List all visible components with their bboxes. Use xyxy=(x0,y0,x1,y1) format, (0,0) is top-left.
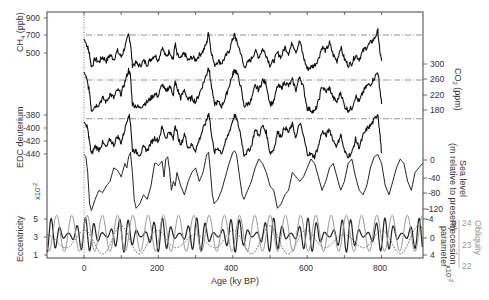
ch4-axis-label: CH4 (ppb) xyxy=(15,12,26,52)
edc-axis-label: EDC deuterium xyxy=(15,106,25,168)
co2-tick-220: 220 xyxy=(430,90,444,100)
reference-lines xyxy=(86,35,423,119)
ecc-tick-5: 5 xyxy=(33,214,38,224)
series-line xyxy=(84,151,423,211)
ch4-tick-900: 900 xyxy=(26,13,40,23)
x-tick-labels: 0 200 400 600 800 xyxy=(82,263,388,273)
eccentricity-axis-label: Eccentricity xyxy=(15,215,25,262)
prec-tick-4: 4 xyxy=(430,250,435,260)
sea-tick-0: 0 xyxy=(430,155,435,165)
orbital-series xyxy=(47,215,423,254)
co2-tick-300: 300 xyxy=(430,59,444,69)
prec-tick-0: 0 xyxy=(430,233,435,243)
sea-level-axis-label: Sea level xyxy=(458,160,468,197)
edc-tick-400: -400 xyxy=(23,123,40,133)
sea-tick-120: -120 xyxy=(426,204,443,214)
obliquity-tick-labels: 24 23 22 xyxy=(462,218,472,271)
left-tick-labels: 900 700 500 -380 -400 -420 -440 5 3 1 xyxy=(23,13,40,260)
x-tick-0: 0 xyxy=(82,263,87,273)
x-tick-800: 800 xyxy=(373,263,387,273)
edc-tick-420: -420 xyxy=(23,136,40,146)
co2-tick-180: 180 xyxy=(430,105,444,115)
obl-tick-23: 23 xyxy=(462,240,472,250)
x-tick-200: 200 xyxy=(150,263,164,273)
edc-tick-440: -440 xyxy=(23,149,40,159)
edc-tick-380: -380 xyxy=(23,110,40,120)
obl-tick-22: 22 xyxy=(462,261,472,271)
parameter-axis-label: parameter xyxy=(439,226,449,267)
obliquity-axis-label: Obliquity xyxy=(473,220,483,256)
sea-tick-80: -80 xyxy=(428,188,441,198)
prec-tick-4n: -4 xyxy=(426,214,434,224)
sea-level-series xyxy=(84,151,423,211)
co2-tick-260: 260 xyxy=(430,74,444,84)
x-tick-600: 600 xyxy=(299,263,313,273)
ecc-tick-1: 1 xyxy=(33,250,38,260)
climate-chart: 900 700 500 -380 -400 -420 -440 5 3 1 CH… xyxy=(0,0,489,300)
x10-left-label: x10-2 xyxy=(32,183,42,200)
axis-ticks xyxy=(44,12,427,258)
sea-level-unit-label: (m relative to present) xyxy=(448,143,458,231)
x-axis-label: Age (ky BP) xyxy=(211,276,259,286)
ch4-tick-700: 700 xyxy=(26,30,40,40)
obl-tick-24: 24 xyxy=(462,218,472,228)
x10-right-label: x10-2 xyxy=(444,265,454,282)
co2-series xyxy=(84,68,382,113)
x-tick-400: 400 xyxy=(224,263,238,273)
ch4-tick-500: 500 xyxy=(26,48,40,58)
sea-tick-40: -40 xyxy=(428,173,441,183)
co2-axis-label: CO2 (ppm) xyxy=(452,68,463,111)
ecc-tick-3: 3 xyxy=(33,232,38,242)
series-line xyxy=(84,68,382,113)
